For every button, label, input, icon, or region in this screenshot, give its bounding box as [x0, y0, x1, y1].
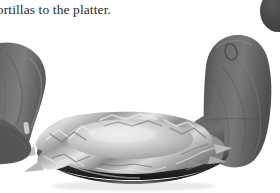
photo-illustration	[0, 22, 280, 193]
caption-text: tortillas to the platter.	[0, 1, 111, 19]
page-root: tortillas to the platter.	[0, 0, 280, 193]
photo-oven-mitts-platter	[0, 22, 280, 193]
caption-line: tortillas to the platter.	[0, 0, 280, 22]
faint-watermark: · · ·	[258, 164, 274, 171]
